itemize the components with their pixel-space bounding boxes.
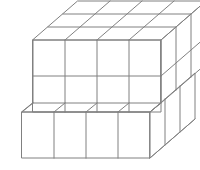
figure-container: Stacked unit cubes solid — [0, 0, 200, 170]
solid-faces — [22, 1, 200, 158]
cube-stack-figure: Stacked unit cubes solid — [0, 0, 200, 170]
